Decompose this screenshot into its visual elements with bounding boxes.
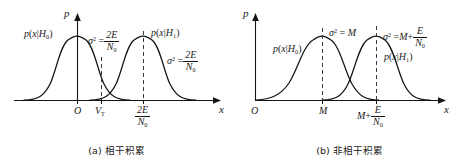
variance-value-b2: M xyxy=(399,31,407,42)
sigma-exponent-b2: 2 xyxy=(388,31,391,38)
fraction-a2-den-sub: 0 xyxy=(193,66,196,73)
fraction-tick-b-den-sub: 0 xyxy=(380,121,383,128)
fraction-a2-den-base: N xyxy=(186,61,193,72)
density-h1-b-close: ) xyxy=(409,51,412,62)
density-h0-b-h: H xyxy=(288,43,295,54)
figure-root: p x p(x|H0) p(x|H1) σ2 =2EN0 σ2 =2EN0 O … xyxy=(0,0,466,168)
density-h1-b-h: H xyxy=(399,51,406,62)
x-tick-label-m-b: M xyxy=(319,106,327,116)
variance-annotation-h1-a: σ2 =2EN0 xyxy=(167,50,198,73)
fraction-tick-b-den-base: N xyxy=(373,116,380,127)
sigma-exponent-a1: 2 xyxy=(93,35,96,42)
fraction-a1-den-base: N xyxy=(107,41,114,52)
variance-annotation-h0-a: σ2 =2EN0 xyxy=(88,30,119,53)
fraction-tick-b: EN0 xyxy=(371,105,385,128)
y-axis-label-b: p xyxy=(243,8,249,19)
fraction-tick-a-den-sub: 0 xyxy=(144,121,147,128)
sigma-exponent-b1: 2 xyxy=(334,27,337,34)
y-axis-arrow-b xyxy=(252,13,259,21)
variance-value-b1: M xyxy=(348,27,356,38)
fraction-tick-a-den: N0 xyxy=(135,117,150,129)
x-tick-label-origin-a: O xyxy=(74,106,81,116)
fraction-a1: 2EN0 xyxy=(104,30,119,53)
fraction-a1-den-sub: 0 xyxy=(114,46,117,53)
fraction-a2-den: N0 xyxy=(183,62,198,74)
density-h1-a-close: ) xyxy=(176,27,179,38)
panel-coherent-integration: p x p(x|H0) p(x|H1) σ2 =2EN0 σ2 =2EN0 O … xyxy=(0,0,233,168)
fraction-a1-den: N0 xyxy=(104,42,119,54)
panel-noncoherent-integration: p x O p(x|H0) p(x|H1) σ2 = M σ2 =M+EN0 M… xyxy=(233,0,466,168)
caption-panel-a: (a) 相干积累 xyxy=(0,143,233,157)
x-tick-label-origin-b: O xyxy=(251,106,258,116)
density-h0-b-close: ) xyxy=(298,43,301,54)
caption-panel-b: (b) 非相干积累 xyxy=(233,143,466,157)
fraction-tick-a: 2EN0 xyxy=(135,105,150,128)
x-tick-label-m-e-n0-b: M+EN0 xyxy=(357,105,385,128)
x-tick-label-2e-n0-a: 2EN0 xyxy=(135,105,150,128)
x-axis-label-b: x xyxy=(444,104,449,115)
fraction-b2-den-base: N xyxy=(415,37,422,48)
y-axis-label-a: p xyxy=(64,8,70,19)
fraction-tick-b-den: N0 xyxy=(371,117,385,129)
variance-annotation-h1-b: σ2 =M+EN0 xyxy=(383,26,427,49)
sigma-exponent-a2: 2 xyxy=(172,55,175,62)
density-label-h0-b: p(x|H0) xyxy=(273,44,301,55)
density-label-h1-b: p(x|H1) xyxy=(384,52,412,63)
variance-annotation-h0-b: σ2 = M xyxy=(329,28,356,38)
fraction-b2-den: N0 xyxy=(413,38,427,50)
vt-sub: T xyxy=(101,110,105,117)
fraction-b2: EN0 xyxy=(413,26,427,49)
fraction-b2-den-sub: 0 xyxy=(422,42,425,49)
density-h1-a-h: H xyxy=(166,27,173,38)
density-h0-a-h: H xyxy=(39,28,46,39)
x-axis-label-a: x xyxy=(219,104,224,115)
density-label-h1-a: p(x|H1) xyxy=(151,28,179,39)
density-label-h0-a: p(x|H0) xyxy=(24,29,52,40)
y-axis-arrow-a xyxy=(74,13,81,21)
x-tick-label-vt-a: VT xyxy=(95,106,105,117)
density-h0-a-close: ) xyxy=(49,28,52,39)
equals-b1: = xyxy=(340,27,346,38)
fraction-a2: 2EN0 xyxy=(183,50,198,73)
